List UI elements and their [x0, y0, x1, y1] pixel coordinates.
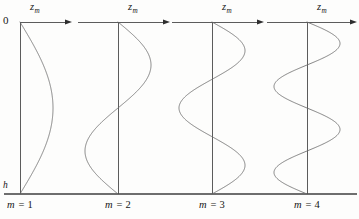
mode-caption-m4: m = 4: [294, 200, 320, 211]
axis-symbol-label-m4: zm: [317, 2, 327, 15]
panel-m1: [20, 19, 72, 194]
mode-caption-value: = 1: [16, 199, 33, 210]
axis-symbol-subscript: m: [226, 7, 231, 15]
mode-caption-value: = 4: [303, 199, 320, 210]
mode-caption-symbol: m: [7, 199, 15, 210]
axis-arrow-icon: [350, 19, 357, 24]
bottom-depth-label: h: [3, 181, 8, 191]
mode-caption-m3: m = 3: [199, 200, 225, 211]
axis-symbol-subscript: m: [34, 7, 39, 15]
mode-caption-m1: m = 1: [7, 200, 33, 211]
panel-m3: [172, 19, 264, 194]
mode-panels-group: [20, 19, 357, 194]
mode-structure-figure: 0 h zmm = 1zmm = 2zmm = 3zmm = 4: [0, 0, 359, 219]
mode-caption-symbol: m: [199, 199, 207, 210]
axis-arrow-icon: [257, 19, 264, 24]
mode-caption-symbol: m: [105, 199, 113, 210]
figure-canvas: [0, 0, 359, 219]
axis-arrow-icon: [163, 19, 170, 24]
panel-m2: [78, 19, 170, 194]
axis-symbol-label-m3: zm: [222, 2, 232, 15]
surface-depth-label: 0: [3, 15, 9, 26]
mode-caption-value: = 2: [114, 199, 131, 210]
axis-symbol-subscript: m: [321, 7, 326, 15]
mode-curve-m1: [20, 22, 53, 194]
panel-m4: [267, 19, 357, 194]
axis-symbol-subscript: m: [132, 7, 137, 15]
axis-arrow-icon: [65, 19, 72, 24]
mode-caption-value: = 3: [208, 199, 225, 210]
axis-symbol-label-m1: zm: [30, 2, 40, 15]
mode-caption-symbol: m: [294, 199, 302, 210]
mode-caption-m2: m = 2: [105, 200, 131, 211]
axis-symbol-label-m2: zm: [128, 2, 138, 15]
